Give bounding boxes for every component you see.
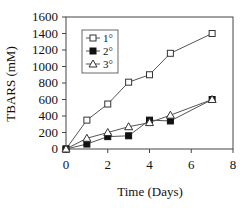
filled-square-marker-icon (126, 133, 132, 139)
y-tick-label: 400 (39, 108, 59, 123)
legend-label: 2° (103, 45, 113, 57)
x-tick-label: 4 (146, 157, 153, 172)
open-square-marker-icon (84, 117, 90, 123)
x-tick-label: 8 (230, 157, 237, 172)
y-tick-label: 0 (52, 141, 59, 156)
y-tick-label: 1400 (32, 26, 58, 41)
y-tick-label: 1000 (32, 59, 58, 74)
y-tick-label: 200 (39, 125, 59, 140)
legend: 1°2°3° (82, 30, 118, 73)
filled-square-marker-icon (90, 48, 96, 54)
open-square-marker-icon (147, 72, 153, 78)
open-square-marker-icon (105, 101, 111, 107)
open-square-marker-icon (209, 31, 215, 37)
y-tick-label: 800 (39, 75, 59, 90)
y-tick-label: 600 (39, 92, 59, 107)
legend-label: 3° (103, 58, 113, 70)
open-triangle-marker-icon (166, 111, 174, 118)
x-axis-label: Time (Days) (117, 184, 183, 199)
y-tick-label: 1600 (32, 9, 58, 24)
y-tick-label: 1200 (32, 42, 58, 57)
open-square-marker-icon (167, 50, 173, 56)
x-tick-label: 0 (63, 157, 70, 172)
y-axis-label: TBARS (mM) (3, 46, 18, 121)
open-square-marker-icon (90, 35, 96, 41)
filled-square-marker-icon (167, 118, 173, 124)
x-tick-label: 2 (105, 157, 112, 172)
legend-label: 1° (103, 32, 113, 44)
open-square-marker-icon (126, 79, 132, 85)
x-tick-label: 6 (188, 157, 195, 172)
tbars-line-chart: 0200400600800100012001400160002468 1°2°3… (0, 0, 247, 210)
filled-square-marker-icon (84, 141, 90, 147)
